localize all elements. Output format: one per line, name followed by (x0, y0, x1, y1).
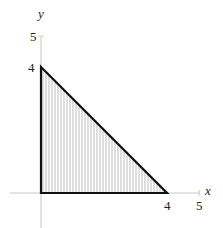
x-tick-label-4: 4 (164, 199, 171, 212)
shaded-triangle (41, 67, 167, 193)
y-axis-label: y (38, 7, 44, 20)
x-tick-label-5: 5 (196, 199, 203, 212)
y-tick-label-5: 5 (30, 30, 37, 43)
y-tick-label-4: 4 (28, 61, 35, 74)
x-axis-label: x (205, 184, 211, 197)
